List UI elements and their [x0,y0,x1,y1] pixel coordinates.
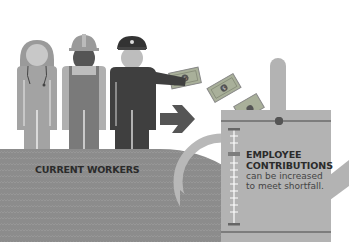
contrib-desc-line2: to meet shortfall. [246,181,333,191]
current-workers-label: CURRENT WORKERS [35,164,139,175]
nurse-figure-icon [17,40,57,149]
contrib-title-line2: CONTRIBUTIONS [246,161,333,172]
contrib-desc-line1: can be increased [246,171,333,181]
contrib-title-line1: EMPLOYEE [246,150,333,161]
money-bill-icon: $ [207,74,241,103]
arrow-right-icon [160,105,195,133]
can-rim [221,110,271,120]
infographic-scene: $ $ [0,0,349,242]
construction-worker-figure-icon [62,34,106,149]
employee-contributions-label: EMPLOYEE CONTRIBUTIONS can be increased … [246,150,333,191]
